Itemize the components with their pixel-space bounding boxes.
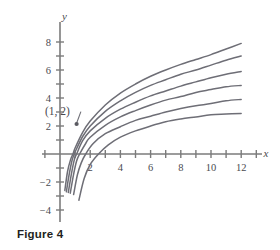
y-tick-label: 6 <box>46 65 51 76</box>
x-tick-label: 6 <box>148 162 153 173</box>
axes-group <box>42 22 262 222</box>
curve-3 <box>68 71 241 192</box>
curve-series-group <box>65 43 241 200</box>
point-annotation-label: (1, 2) <box>45 105 70 118</box>
y-tick-label: −4 <box>40 205 52 216</box>
x-tick-label: 8 <box>178 162 183 173</box>
curve-5 <box>74 99 242 194</box>
x-tick-label: 12 <box>236 162 247 173</box>
y-axis-label: y <box>61 10 67 22</box>
y-tick-label: 2 <box>46 121 51 132</box>
figure-4-container: 24681012 −4−22468 x y (1, 2) Figure 4 <box>0 0 280 250</box>
data-point-marker <box>75 122 79 126</box>
y-axis-tick-labels: −4−22468 <box>40 37 52 216</box>
y-tick-label: −2 <box>40 177 51 188</box>
figure-caption: Figure 4 <box>17 228 63 240</box>
logarithmic-family-plot: 24681012 −4−22468 x y (1, 2) <box>0 0 280 250</box>
y-tick-label: 4 <box>46 93 52 104</box>
curve-4 <box>70 85 241 193</box>
x-axis-tick-labels: 24681012 <box>88 162 247 173</box>
x-tick-label: 4 <box>118 162 124 173</box>
x-tick-label: 10 <box>206 162 217 173</box>
point-annotation-group <box>75 112 81 127</box>
x-axis-label: x <box>263 147 269 159</box>
y-tick-label: 8 <box>46 37 51 48</box>
